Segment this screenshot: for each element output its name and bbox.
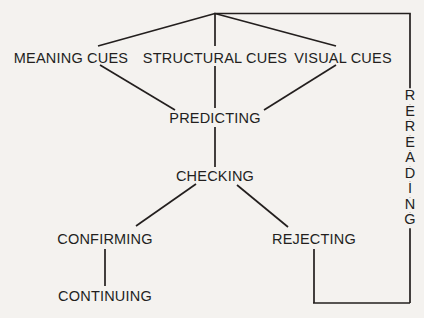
- node-continuing[interactable]: CONTINUING: [58, 289, 152, 304]
- rereading-letter: E: [403, 104, 417, 120]
- edge-checking-to-rejecting: [237, 185, 288, 227]
- node-rejecting[interactable]: REJECTING: [272, 232, 356, 247]
- node-confirming[interactable]: CONFIRMING: [57, 232, 152, 247]
- node-structural-cues[interactable]: STRUCTURAL CUES: [143, 51, 287, 66]
- edge-meaning-cues-to-predicting: [100, 65, 175, 110]
- rereading-letter: R: [403, 119, 417, 135]
- rereading-letter: G: [403, 212, 417, 228]
- edge-checking-to-confirming: [136, 184, 196, 226]
- rereading-letter: I: [403, 181, 417, 197]
- node-rereading[interactable]: R E R E A D I N G: [403, 88, 417, 228]
- edge-apex-to-meaning-cues: [98, 14, 215, 47]
- rereading-letter: D: [403, 166, 417, 182]
- rereading-letter: E: [403, 135, 417, 151]
- rereading-letter: A: [403, 150, 417, 166]
- node-checking[interactable]: CHECKING: [176, 169, 254, 184]
- diagram-canvas: MEANING CUES STRUCTURAL CUES VISUAL CUES…: [0, 0, 424, 318]
- node-predicting[interactable]: PREDICTING: [169, 111, 260, 126]
- edge-visual-cues-to-predicting: [264, 65, 336, 110]
- rereading-letter: N: [403, 197, 417, 213]
- node-visual-cues[interactable]: VISUAL CUES: [294, 51, 392, 66]
- edge-apex-to-visual-cues: [215, 14, 336, 47]
- node-meaning-cues[interactable]: MEANING CUES: [14, 51, 128, 66]
- diagram-connectors: [0, 0, 424, 318]
- rereading-letter: R: [403, 88, 417, 104]
